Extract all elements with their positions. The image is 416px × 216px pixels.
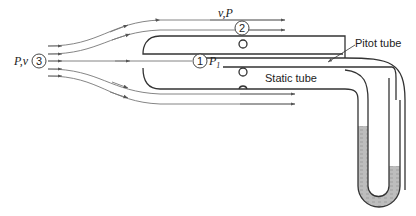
point-1-label: 1 — [197, 55, 203, 67]
static-port-top — [239, 40, 247, 48]
streamline-top-outer — [48, 20, 285, 46]
static-tube-outer-top — [143, 36, 345, 58]
manometer-fluid — [358, 126, 400, 207]
streamlines — [48, 20, 295, 104]
stagnation-pressure-label: P1 — [208, 54, 220, 70]
streamline-bottom-outer — [48, 76, 295, 104]
pitot-static-diagram: 3 2 1 P,v v,P P1 Pitot tube Static tube — [0, 0, 416, 216]
pitot-tube-label: Pitot tube — [355, 37, 401, 49]
streamline-top-inner — [48, 30, 285, 54]
point-2-label: 2 — [239, 22, 245, 34]
inlet-label: P,v — [13, 54, 29, 68]
outer-flow-label: v,P — [218, 6, 233, 20]
point-3-label: 3 — [36, 55, 42, 67]
static-tube-label: Static tube — [265, 72, 317, 84]
static-port-bottom — [239, 68, 247, 76]
